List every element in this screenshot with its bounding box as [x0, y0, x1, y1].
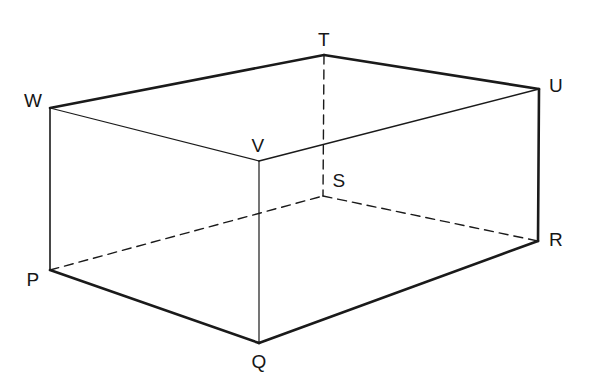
cuboid-svg — [0, 0, 592, 378]
vertex-label-w: W — [24, 91, 42, 110]
cuboid-diagram: PQRSTUVW — [0, 0, 592, 378]
vertex-label-s: S — [333, 171, 346, 190]
edge-W-T — [50, 55, 324, 108]
edge-U-R — [538, 89, 539, 241]
vertex-label-p: P — [27, 270, 40, 289]
vertex-label-q: Q — [252, 352, 267, 371]
edge-T-U — [324, 55, 539, 89]
edge-W-V — [50, 108, 259, 161]
edge-P-S — [50, 196, 323, 270]
edge-T-S — [323, 55, 324, 196]
edge-V-U — [259, 89, 539, 161]
vertex-label-t: T — [318, 30, 330, 49]
edge-S-R — [323, 196, 538, 241]
edge-P-Q — [50, 270, 259, 343]
vertex-label-r: R — [549, 230, 563, 249]
vertex-label-u: U — [549, 76, 563, 95]
edge-Q-R — [259, 241, 538, 343]
vertex-label-v: V — [252, 136, 265, 155]
